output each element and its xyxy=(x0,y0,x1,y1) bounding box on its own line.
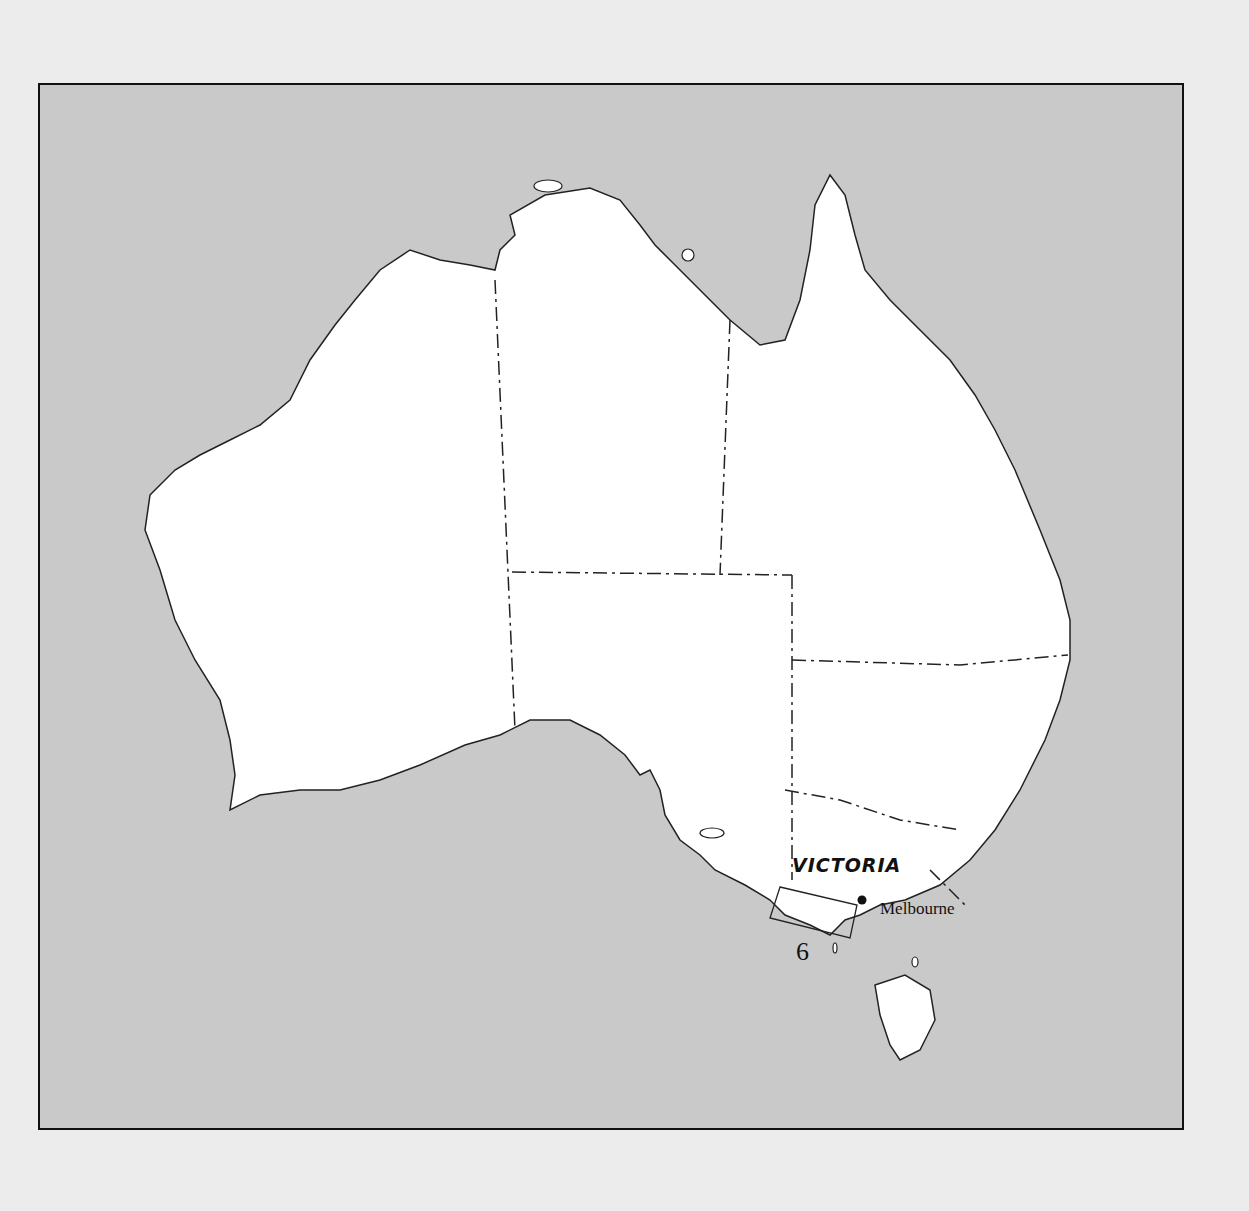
king-island xyxy=(833,943,837,953)
groote-eylandt xyxy=(682,249,694,261)
victoria-label: VICTORIA xyxy=(792,854,901,876)
melbourne-label: Melbourne xyxy=(880,899,955,918)
melville-island xyxy=(534,180,562,192)
melbourne-marker[interactable] xyxy=(858,896,867,905)
tasmania xyxy=(875,975,935,1060)
australia-map: Melbourne VICTORIA 6 xyxy=(0,0,1249,1211)
flinders-island xyxy=(912,957,918,967)
mainland-australia xyxy=(145,175,1070,935)
kangaroo-island xyxy=(700,828,724,838)
inset-number: 6 xyxy=(796,937,809,966)
